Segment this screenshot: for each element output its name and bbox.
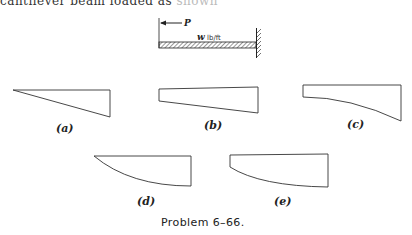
load-units: lb/ft: [207, 34, 221, 42]
option-label-a: (a): [56, 122, 74, 135]
diagram-shape-c: [303, 85, 401, 121]
diagram-shape-a: [13, 90, 110, 117]
option-b[interactable]: (b): [159, 87, 258, 132]
option-d[interactable]: (d): [94, 156, 191, 208]
option-a[interactable]: (a): [13, 90, 110, 135]
load-symbol: w: [197, 32, 205, 42]
cantilever-beam-figure: P w lb/ft: [159, 18, 261, 58]
diagram-shape-b: [159, 87, 258, 113]
option-label-b: (b): [204, 119, 222, 132]
force-label: P: [183, 18, 191, 28]
figure-caption: Problem 6–66.: [161, 216, 245, 229]
diagram-shape-d: [94, 156, 191, 186]
option-label-e: (e): [274, 195, 291, 208]
force-arrow-icon: [160, 21, 182, 26]
fixed-wall-support: [257, 28, 262, 58]
beam-body: [159, 42, 256, 48]
option-label-d: (d): [137, 195, 155, 208]
diagram-shape-e: [230, 154, 328, 187]
diagram-canvas: P w lb/ft (a) (b) (c) (d): [0, 0, 412, 235]
option-e[interactable]: (e): [230, 154, 328, 208]
option-c[interactable]: (c): [303, 85, 401, 131]
option-label-c: (c): [347, 118, 364, 131]
